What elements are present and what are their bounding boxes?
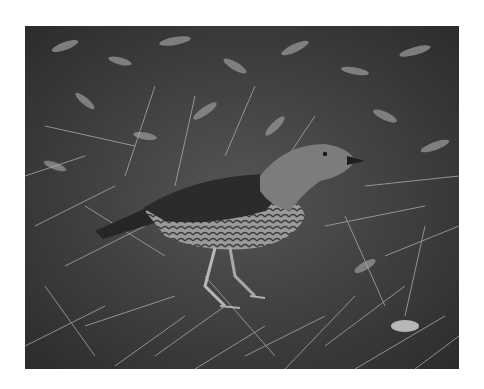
bird-eye [323,152,327,156]
bird-photo: Grayscale photo of a bird with a scallop… [25,26,459,369]
bird-scene [25,26,459,369]
